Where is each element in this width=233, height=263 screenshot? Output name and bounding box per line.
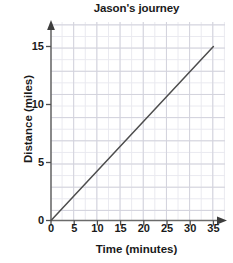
x-tick-label-20: 20: [133, 222, 155, 234]
x-axis-title: Time (minutes): [44, 243, 229, 255]
x-tick-label-35: 35: [202, 222, 224, 234]
x-tick-label-10: 10: [86, 222, 108, 234]
data-line-jasons-journey: [51, 47, 213, 221]
chart-container: Jason's journey: [0, 0, 233, 263]
x-tick-label-5: 5: [63, 222, 85, 234]
y-axis-arrow-icon: [47, 20, 55, 30]
x-tick-label-30: 30: [179, 222, 201, 234]
x-tick-label-15: 15: [110, 222, 132, 234]
y-axis-title: Distance (miles): [22, 44, 34, 194]
y-tick-label-0: 0: [20, 214, 44, 226]
x-tick-label-25: 25: [156, 222, 178, 234]
